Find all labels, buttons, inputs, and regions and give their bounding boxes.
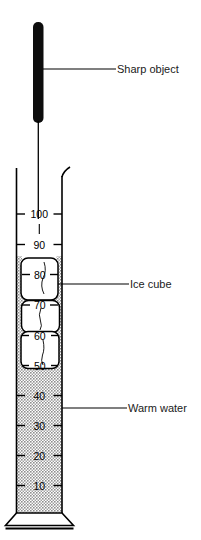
sharp-object-group [33, 22, 44, 219]
graduation-label-70: 70 [34, 299, 46, 311]
callout-label-ice-cube: Ice cube [130, 278, 172, 290]
graduation-label-60: 60 [34, 330, 46, 342]
graduation-label-10: 10 [33, 480, 45, 492]
graduation-label-20: 20 [33, 450, 45, 462]
graduation-label-50: 50 [34, 360, 46, 372]
graduation-90: 90 [17, 239, 63, 251]
graduated-cylinder: 100 90 80 70 60 [6, 167, 74, 529]
cylinder-base [6, 513, 74, 526]
graduation-label-30: 30 [33, 420, 45, 432]
callout-label-warm-water: Warm water [128, 402, 187, 414]
graduation-label-40: 40 [33, 390, 45, 402]
sharp-object-handle [33, 22, 44, 123]
graduation-label-90: 90 [33, 239, 45, 251]
cylinder-spout [62, 167, 70, 177]
cylinder-diagram: 100 90 80 70 60 [0, 0, 201, 540]
graduation-label-80: 80 [34, 269, 46, 281]
callout-label-sharp-object: Sharp object [117, 63, 179, 75]
graduation-label-100: 100 [31, 208, 49, 220]
graduation-100: 100 [17, 208, 63, 234]
